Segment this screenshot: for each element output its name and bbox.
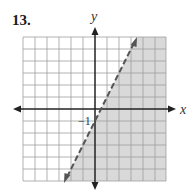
- boundary-top-arrow-icon: [131, 37, 138, 47]
- graph: x y −1: [0, 0, 195, 190]
- x-axis-left-arrow-icon: [13, 106, 21, 113]
- y-axis-down-arrow-icon: [92, 182, 99, 190]
- y-axis-label: y: [89, 9, 98, 24]
- y-axis-up-arrow-icon: [92, 27, 99, 35]
- y-intercept-label: −1: [78, 114, 91, 128]
- x-axis-right-arrow-icon: [168, 106, 176, 113]
- x-axis-label: x: [179, 102, 187, 117]
